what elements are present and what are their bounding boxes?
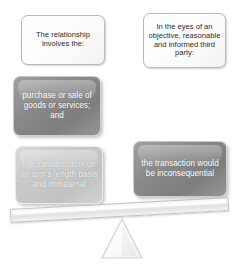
condition-box-right-text: the transaction would be inconsequential [138, 159, 222, 178]
condition-box-left-lower: the transaction is on an arm's length ba… [15, 146, 103, 204]
diagram-canvas: The relationship involves the: In the ey… [0, 0, 238, 268]
fulcrum-triangle-icon [101, 218, 143, 260]
condition-box-left-upper-text: purchase or sale of goods or services; a… [18, 91, 96, 120]
premise-box-left-text: The relationship involves the: [26, 31, 100, 49]
premise-box-left: The relationship involves the: [21, 15, 105, 65]
condition-box-right: the transaction would be inconsequential [133, 141, 227, 197]
condition-box-left-upper: purchase or sale of goods or services; a… [13, 76, 101, 136]
premise-box-right-text: In the eyes of an objective, reasonable … [148, 23, 221, 59]
premise-box-right: In the eyes of an objective, reasonable … [143, 13, 226, 68]
condition-box-left-lower-text: the transaction is on an arm's length ba… [20, 160, 98, 189]
